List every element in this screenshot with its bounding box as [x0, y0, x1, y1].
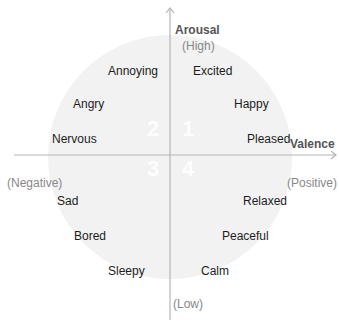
quadrant-number-3: 3: [147, 158, 159, 180]
emotion-label-sleepy: Sleepy: [108, 264, 145, 278]
emotion-label-pleased: Pleased: [247, 132, 290, 146]
arousal-high-note: (High): [182, 39, 215, 53]
emotion-label-annoying: Annoying: [108, 64, 158, 78]
arousal-low-note: (Low): [173, 297, 203, 311]
emotion-label-happy: Happy: [234, 97, 269, 111]
emotion-label-nervous: Nervous: [52, 132, 97, 146]
diagram-graphics: [0, 0, 339, 326]
quadrant-number-4: 4: [182, 158, 194, 180]
valence-negative-note: (Negative): [7, 176, 62, 190]
valence-axis-title: Valence: [290, 137, 335, 151]
arousal-axis-title: Arousal: [175, 23, 220, 37]
quadrant-number-1: 1: [182, 118, 194, 140]
emotion-label-bored: Bored: [74, 229, 106, 243]
circumplex-diagram: Arousal (High) (Low) Valence (Negative) …: [0, 0, 339, 326]
emotion-label-sad: Sad: [57, 194, 78, 208]
emotion-label-peaceful: Peaceful: [222, 229, 269, 243]
emotion-label-excited: Excited: [193, 64, 232, 78]
emotion-label-relaxed: Relaxed: [243, 194, 287, 208]
emotion-label-angry: Angry: [73, 97, 104, 111]
emotion-label-calm: Calm: [201, 264, 229, 278]
valence-positive-note: (Positive): [287, 176, 337, 190]
quadrant-number-2: 2: [147, 118, 159, 140]
